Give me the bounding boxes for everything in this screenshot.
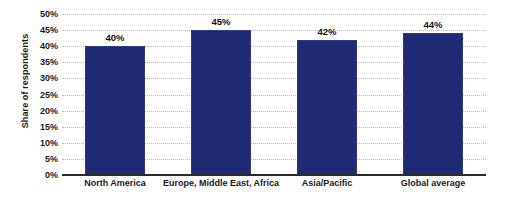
y-axis-tick-label: 35% (24, 57, 58, 67)
bar-value-label: 42% (297, 26, 357, 37)
y-axis-tick-label: 50% (24, 9, 58, 19)
bar (191, 30, 251, 175)
y-axis-tick-labels: 0%5%10%15%20%25%30%35%40%45%50% (24, 0, 58, 175)
x-axis-category-label: Asia/Pacific (268, 178, 386, 190)
x-axis-baseline (62, 174, 486, 176)
x-axis-category-labels: North AmericaEurope, Middle East, Africa… (62, 178, 486, 204)
y-axis-tick-label: 0% (24, 170, 58, 180)
y-axis-tick-label: 20% (24, 106, 58, 116)
y-axis-tick-label: 40% (24, 41, 58, 51)
bar-value-label: 40% (85, 32, 145, 43)
bar-group: 42% (297, 14, 357, 175)
bar-group: 44% (403, 14, 463, 175)
x-axis-category-label: Global average (374, 178, 492, 190)
y-axis-tick-label: 15% (24, 122, 58, 132)
y-axis-tick-label: 45% (24, 25, 58, 35)
plot-area: 40%45%42%44% (62, 14, 486, 175)
y-axis-tick-label: 25% (24, 90, 58, 100)
bar (297, 40, 357, 175)
bar (403, 33, 463, 175)
bar (85, 46, 145, 175)
x-axis-category-label: North America (56, 178, 174, 190)
bar-group: 40% (85, 14, 145, 175)
bar-value-label: 44% (403, 19, 463, 30)
bar-group: 45% (191, 14, 251, 175)
bars-layer: 40%45%42%44% (62, 14, 486, 175)
bar-chart: Share of respondents 0%5%10%15%20%25%30%… (0, 0, 507, 204)
y-axis-tick-label: 10% (24, 138, 58, 148)
bar-value-label: 45% (191, 16, 251, 27)
y-axis-tick-label: 5% (24, 154, 58, 164)
x-axis-category-label: Europe, Middle East, Africa (162, 178, 280, 190)
y-axis-tick-label: 30% (24, 73, 58, 83)
